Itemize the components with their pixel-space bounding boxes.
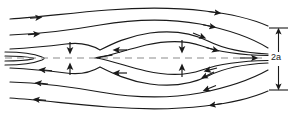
streamline-top-outer <box>10 8 268 26</box>
arrowhead-island-upper <box>206 48 217 51</box>
upper-arrowhead-group <box>28 12 219 38</box>
arrowhead-top-inner-right <box>203 25 214 27</box>
half-width-label: 2a <box>271 52 281 62</box>
streamline-bottom-outer <box>10 91 268 109</box>
arrowhead-top-outer-left <box>30 18 40 19</box>
magnetic-island-streamline-diagram: 2a <box>0 0 301 120</box>
lower-streamline-group <box>10 63 268 109</box>
arrowhead-separatrix-lower-right <box>203 72 214 78</box>
streamline-canvas <box>0 0 301 120</box>
lower-arrowhead-group <box>35 70 222 106</box>
arrowhead-top-inner-left <box>28 34 38 35</box>
streamline-top-inner <box>10 20 268 48</box>
streamline-separatrix-upper <box>10 32 268 54</box>
arrowhead-top-outer-right <box>208 12 219 14</box>
streamline-bottom-inner <box>10 70 268 97</box>
streamline-separatrix-lower <box>10 63 268 85</box>
